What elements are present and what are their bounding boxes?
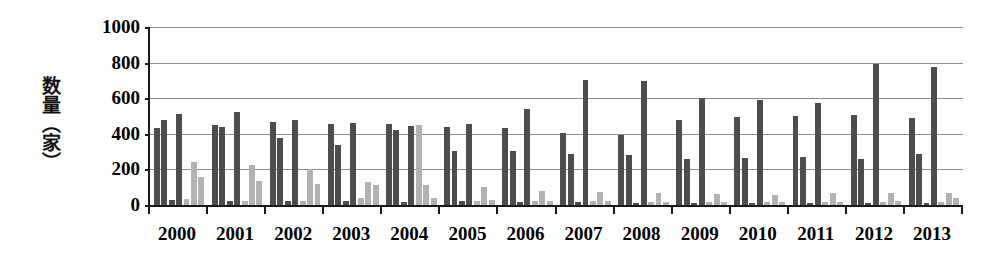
x-tick-mark <box>961 205 963 214</box>
bar <box>909 118 915 205</box>
bar <box>656 193 662 205</box>
bar <box>676 120 682 205</box>
bar <box>452 151 458 205</box>
x-tick-mark <box>671 205 673 214</box>
x-tick-label-2004: 2004 <box>379 222 439 246</box>
bar <box>742 158 748 205</box>
bar <box>714 194 720 205</box>
x-tick-mark <box>729 205 731 214</box>
bar <box>307 169 313 205</box>
x-tick-label-2002: 2002 <box>263 222 323 246</box>
y-tick-label-800: 800 <box>80 53 140 72</box>
x-tick-mark <box>438 205 440 214</box>
bar <box>328 124 334 205</box>
bar <box>772 195 778 205</box>
y-tick-label-600: 600 <box>80 88 140 107</box>
bar-chart: 数量（家） 02004006008001000 2000200120022003… <box>0 0 1000 262</box>
bar <box>408 126 414 205</box>
bar <box>386 124 392 205</box>
bar <box>219 127 225 205</box>
bar <box>560 133 566 205</box>
bar <box>315 184 321 205</box>
bar <box>858 159 864 205</box>
x-tick-label-2010: 2010 <box>728 222 788 246</box>
bar <box>444 127 450 205</box>
y-tick-label-1000: 1000 <box>80 17 140 36</box>
x-tick-mark <box>264 205 266 214</box>
bar <box>373 185 379 205</box>
bar <box>335 145 341 205</box>
bar <box>176 114 182 205</box>
bars-layer <box>150 27 963 205</box>
x-tick-label-2005: 2005 <box>437 222 497 246</box>
bar <box>292 120 298 205</box>
x-tick-label-2000: 2000 <box>147 222 207 246</box>
bar <box>815 103 821 205</box>
bar <box>481 187 487 205</box>
bar <box>154 128 160 205</box>
bar <box>597 192 603 205</box>
x-tick-label-2003: 2003 <box>321 222 381 246</box>
y-tick-label-400: 400 <box>80 124 140 143</box>
y-tick-label-0: 0 <box>80 195 140 214</box>
x-tick-mark <box>845 205 847 214</box>
y-axis-tick-labels: 02004006008001000 <box>78 27 140 205</box>
bar <box>191 162 197 205</box>
bar <box>466 124 472 205</box>
bar <box>953 198 959 205</box>
plot-area <box>148 27 963 205</box>
bar <box>734 117 740 205</box>
bar <box>198 177 204 205</box>
x-tick-label-2007: 2007 <box>554 222 614 246</box>
bar <box>851 115 857 205</box>
x-tick-label-2009: 2009 <box>670 222 730 246</box>
bar <box>800 157 806 205</box>
x-tick-label-2013: 2013 <box>902 222 962 246</box>
bar <box>234 112 240 205</box>
x-tick-mark <box>903 205 905 214</box>
bar <box>873 64 879 206</box>
x-tick-mark <box>148 205 150 214</box>
bar <box>757 100 763 205</box>
bar <box>916 154 922 205</box>
bar <box>431 198 437 205</box>
y-axis-title: 数量（家） <box>14 48 60 198</box>
x-tick-mark <box>787 205 789 214</box>
x-tick-label-2008: 2008 <box>612 222 672 246</box>
x-tick-label-2011: 2011 <box>786 222 846 246</box>
x-tick-mark <box>322 205 324 214</box>
x-tick-mark <box>206 205 208 214</box>
bar <box>350 123 356 205</box>
x-tick-label-2012: 2012 <box>844 222 904 246</box>
bar <box>256 181 262 205</box>
bar <box>249 165 255 205</box>
bar <box>416 125 422 205</box>
x-axis-ticks <box>148 205 963 215</box>
x-tick-mark <box>613 205 615 214</box>
bar <box>510 151 516 205</box>
bar <box>270 122 276 205</box>
bar <box>583 80 589 205</box>
x-tick-mark <box>555 205 557 214</box>
bar <box>524 109 530 205</box>
x-axis-tick-labels: 2000200120022003200420052006200720082009… <box>148 222 961 252</box>
bar <box>277 138 283 205</box>
x-tick-mark <box>380 205 382 214</box>
bar <box>684 159 690 205</box>
bar <box>830 193 836 205</box>
bar <box>423 185 429 205</box>
bar <box>568 154 574 205</box>
y-tick-label-200: 200 <box>80 159 140 178</box>
bar <box>358 198 364 205</box>
bar <box>393 130 399 205</box>
bar <box>618 135 624 205</box>
bar <box>888 193 894 205</box>
bar <box>641 81 647 205</box>
bar <box>626 155 632 205</box>
x-tick-label-2001: 2001 <box>205 222 265 246</box>
bar <box>212 125 218 205</box>
bar <box>699 98 705 205</box>
bar <box>161 120 167 205</box>
bar <box>365 182 371 205</box>
bar <box>946 193 952 205</box>
